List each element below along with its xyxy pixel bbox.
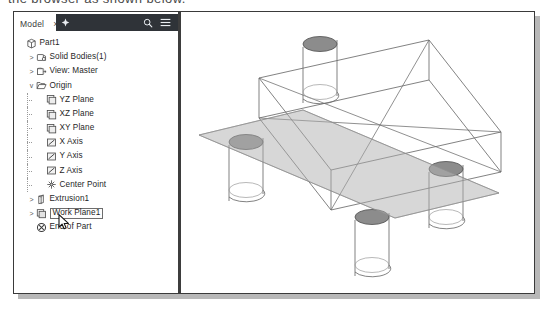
tree-item-work-plane1[interactable]: > Work Plane1 — [14, 206, 178, 220]
tree-item-xz-plane[interactable]: XZ Plane — [14, 107, 178, 121]
chevron-right-icon[interactable]: > — [27, 68, 36, 75]
plane-icon — [46, 94, 57, 105]
tree-item-z-axis[interactable]: Z Axis — [14, 164, 178, 178]
tree-item-label: Origin — [50, 82, 72, 90]
browser-toolbar — [56, 14, 178, 31]
model-wireframe — [181, 12, 533, 293]
tree-item-part1[interactable]: Part1 — [14, 36, 178, 50]
tree-item-x-axis[interactable]: X Axis — [14, 135, 178, 149]
tree-item-label: XY Plane — [60, 124, 95, 132]
tree-item-label: Z Axis — [60, 167, 83, 175]
hamburger-menu-icon[interactable] — [160, 18, 171, 27]
tree-guide-tick — [27, 185, 32, 186]
tree-guide-tick — [27, 171, 32, 172]
tree-guide-tick — [27, 128, 32, 129]
center-point-icon — [46, 179, 57, 190]
chevron-right-icon[interactable]: > — [27, 196, 36, 203]
cylinder-back-top — [303, 37, 339, 104]
extrusion-icon — [36, 194, 47, 205]
tree-item-label: Part1 — [40, 39, 60, 47]
plane-icon — [46, 109, 57, 120]
model-tree: Part1> Solid Bodies(1)> View: Masterv Or… — [14, 36, 178, 235]
plane-icon — [46, 123, 57, 134]
tree-item-origin[interactable]: v Origin — [14, 79, 178, 93]
tree-item-yz-plane[interactable]: YZ Plane — [14, 93, 178, 107]
tree-item-label: View: Master — [50, 67, 98, 75]
application-window-frame: Model × — [13, 11, 535, 294]
3d-model-viewport[interactable] — [181, 12, 533, 293]
tree-guide-tick — [27, 142, 32, 143]
axis-icon — [46, 151, 57, 162]
tree-guide-tick — [27, 100, 32, 101]
tree-item-label: X Axis — [60, 138, 83, 146]
chevron-down-icon[interactable]: v — [27, 82, 36, 89]
search-icon[interactable] — [143, 18, 153, 28]
part-icon — [26, 38, 37, 49]
chevron-right-icon[interactable]: > — [27, 54, 36, 61]
tree-item-y-axis[interactable]: Y Axis — [14, 150, 178, 164]
folder-icon — [36, 80, 47, 91]
tree-item-extrusion1[interactable]: > Extrusion1 — [14, 192, 178, 206]
tree-item-solid-bodies-1[interactable]: > Solid Bodies(1) — [14, 50, 178, 64]
tree-guide-tick — [27, 114, 32, 115]
cylinder-front-bottom — [355, 210, 391, 277]
plus-icon[interactable] — [61, 18, 70, 27]
tree-item-xy-plane[interactable]: XY Plane — [14, 121, 178, 135]
tree-item-label: Work Plane1 — [50, 208, 104, 219]
tree-item-label: End of Part — [50, 223, 92, 231]
tree-item-label: Extrusion1 — [50, 195, 90, 203]
tree-item-view-master[interactable]: > View: Master — [14, 64, 178, 78]
tree-item-label: YZ Plane — [60, 96, 94, 104]
end-of-part-icon — [36, 222, 47, 233]
caption-text: the browser as shown below. — [8, 0, 186, 6]
tab-model[interactable]: Model — [14, 19, 44, 29]
work-plane-icon — [36, 208, 47, 219]
chevron-right-icon[interactable]: > — [27, 210, 36, 217]
tree-guide-tick — [27, 157, 32, 158]
solid-bodies-icon — [36, 52, 47, 63]
tree-item-center-point[interactable]: Center Point — [14, 178, 178, 192]
tree-item-label: Y Axis — [60, 152, 83, 160]
axis-icon — [46, 165, 57, 176]
tree-item-label: XZ Plane — [60, 110, 94, 118]
caption-strip: the browser as shown below. — [0, 0, 551, 9]
view-icon — [36, 66, 47, 77]
tree-item-label: Center Point — [60, 181, 107, 189]
axis-icon — [46, 137, 57, 148]
model-browser-panel: Model × — [14, 12, 178, 293]
tree-item-label: Solid Bodies(1) — [50, 53, 107, 61]
tree-item-end-of-part[interactable]: End of Part — [14, 220, 178, 234]
